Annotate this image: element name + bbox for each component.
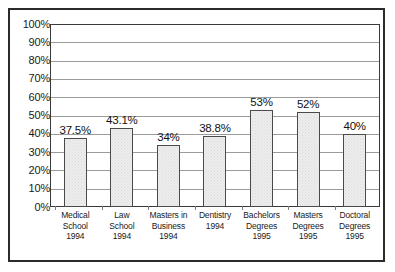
category-label-line: Law School <box>102 210 142 231</box>
bar-series: 37.5%43.1%34%38.8%53%52%40% <box>50 24 380 207</box>
category-label-line: 1994 <box>195 221 235 232</box>
bar-value-label: 34% <box>157 131 179 143</box>
category-label-line: Degrees <box>242 221 282 232</box>
category-label-line: 1995 <box>288 231 328 242</box>
bar-slot: 37.5% <box>55 24 95 207</box>
category-label-line: Masters <box>288 210 328 221</box>
bar-slot: 40% <box>335 24 375 207</box>
x-axis-category-label: MedicalSchool1994 <box>55 207 95 260</box>
category-label-line: 1995 <box>335 231 375 242</box>
y-axis-tick-label: 50% <box>10 110 50 121</box>
chart-frame: 100%90%80%70%60%50%40%30%20%10%0% 37.5%4… <box>8 8 385 262</box>
y-axis-tick-label: 30% <box>10 147 50 158</box>
category-label-line: Medical <box>55 210 95 221</box>
bar[interactable]: 38.8% <box>203 136 226 207</box>
bar-value-label: 40% <box>343 120 365 132</box>
bar-value-label: 53% <box>250 96 272 108</box>
bar-slot: 38.8% <box>195 24 235 207</box>
category-label-line: 1994 <box>102 231 142 242</box>
bar[interactable]: 37.5% <box>64 138 87 207</box>
y-axis-tick-label: 0% <box>10 202 50 213</box>
x-axis-category-label: Masters inBusiness1994 <box>148 207 188 260</box>
category-label-line: Degrees <box>335 221 375 232</box>
x-axis-category-label: MastersDegrees1995 <box>288 207 328 260</box>
bar-slot: 52% <box>288 24 328 207</box>
y-axis-tick-label: 80% <box>10 55 50 66</box>
bar[interactable]: 52% <box>297 112 320 207</box>
bar-slot: 43.1% <box>102 24 142 207</box>
category-label-line: 1994 <box>55 231 95 242</box>
category-label-line: Masters in <box>148 210 188 221</box>
category-label-line: Doctoral <box>335 210 375 221</box>
bar-slot: 34% <box>148 24 188 207</box>
category-label-line: Degrees <box>288 221 328 232</box>
bar[interactable]: 34% <box>157 145 180 207</box>
y-axis-tick-label: 100% <box>10 19 50 30</box>
x-axis-category-label: DoctoralDegrees1995 <box>335 207 375 260</box>
category-label-line: Dentistry <box>195 210 235 221</box>
y-axis: 100%90%80%70%60%50%40%30%20%10%0% <box>10 24 50 207</box>
category-label-line: 1995 <box>242 231 282 242</box>
y-axis-tick-label: 10% <box>10 183 50 194</box>
x-axis-category-label: BachelorsDegrees1995 <box>242 207 282 260</box>
bar-value-label: 38.8% <box>199 122 231 134</box>
category-label-line: School <box>55 221 95 232</box>
y-axis-tick-label: 40% <box>10 128 50 139</box>
x-axis-category-label: Dentistry1994 <box>195 207 235 260</box>
bar[interactable]: 43.1% <box>110 128 133 207</box>
x-axis-category-labels: MedicalSchool1994Law School1994Masters i… <box>50 207 380 260</box>
bar-value-label: 37.5% <box>59 124 91 136</box>
y-axis-tick-label: 70% <box>10 73 50 84</box>
category-label-line: Bachelors <box>242 210 282 221</box>
x-axis-category-label: Law School1994 <box>102 207 142 260</box>
category-label-line: Business <box>148 221 188 232</box>
bar-value-label: 52% <box>297 98 319 110</box>
y-axis-tick-label: 20% <box>10 165 50 176</box>
bar[interactable]: 53% <box>250 110 273 207</box>
y-axis-tick-label: 60% <box>10 92 50 103</box>
category-label-line: 1994 <box>148 231 188 242</box>
bar-slot: 53% <box>242 24 282 207</box>
bar[interactable]: 40% <box>343 134 366 207</box>
bar-value-label: 43.1% <box>106 114 138 126</box>
y-axis-tick-label: 90% <box>10 37 50 48</box>
